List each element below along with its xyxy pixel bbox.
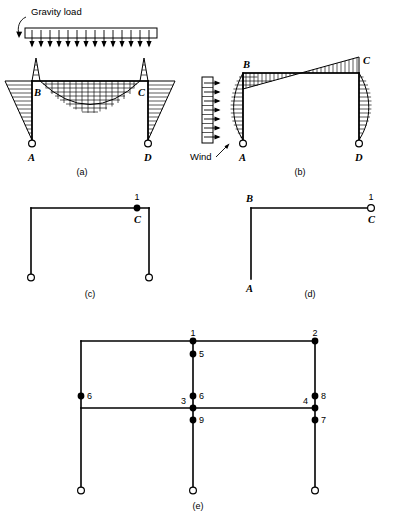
frame-e-dof-node-1 [190, 338, 197, 345]
frame-e-dof-node-6 [190, 393, 197, 400]
panel-e-caption: (e) [193, 501, 204, 511]
frame-e-dof-node-9 [190, 417, 197, 424]
frame-e-right-support-hinge [312, 487, 319, 494]
frame-e-dof-label-n2: 2 [312, 328, 317, 338]
panel-d-caption: (d) [305, 289, 316, 299]
frame-e-dof-label-n1: 1 [190, 328, 195, 338]
panel-b-caption: (b) [295, 167, 306, 177]
frame-e-left-support-hinge [78, 487, 85, 494]
frame-e-dof-label-n8: 8 [321, 391, 326, 401]
panel-c-caption: (c) [85, 289, 96, 299]
frame-e-dof-label-n3: 3 [181, 396, 186, 406]
frame-b-support-D-hinge [356, 140, 363, 147]
frame-c-left-support-hinge [28, 274, 35, 281]
frame-e-dof-node-4 [312, 405, 319, 412]
panel-d-label-C: C [368, 214, 376, 225]
panel-c-dof-label-1: 1 [134, 192, 139, 202]
frame-a-support-D-hinge [145, 140, 152, 147]
frame-e-dof-node-7 [312, 417, 319, 424]
frame-e-dof-label-n6center: 6 [199, 391, 204, 401]
frame-e-dof-node-2 [312, 338, 319, 345]
panel-a-label-B: B [33, 87, 41, 98]
frame-a-support-A-hinge [29, 140, 36, 147]
figure-background [0, 0, 396, 517]
frame-e-dof-label-n7: 7 [321, 415, 326, 425]
panel-c-label-C: C [134, 214, 142, 225]
frame-e-dof-node-8 [312, 393, 319, 400]
frame-b-support-A-hinge [240, 140, 247, 147]
panel-b-label-B: B [242, 59, 250, 70]
frame-e-dof-label-n6left: 6 [87, 391, 92, 401]
panel-a-label-D: D [143, 152, 152, 163]
frame-e-dof-label-n9: 9 [199, 415, 204, 425]
frame-d-free-end-C-hinge [368, 205, 375, 212]
panel-d-dof-label-1: 1 [368, 192, 373, 202]
panel-a-label-A: A [27, 152, 35, 163]
structural-frame-figure: Gravity load [0, 0, 396, 517]
frame-e-center-support-hinge [190, 487, 197, 494]
panel-a-label-C: C [138, 87, 146, 98]
frame-e-dof-label-n5: 5 [199, 349, 204, 359]
panel-a-caption: (a) [77, 167, 88, 177]
frame-e-dof-node-5 [190, 351, 197, 358]
panel-b-label-D: D [354, 152, 363, 163]
frame-e-dof-label-n4: 4 [303, 396, 308, 406]
panel-b-label-C: C [363, 55, 371, 66]
wind-load-label: Wind [190, 151, 212, 162]
panel-d-label-B: B [245, 193, 253, 204]
panel-b-label-A: A [238, 152, 246, 163]
figure-canvas: Gravity load [0, 0, 396, 517]
frame-c-right-support-hinge [146, 274, 153, 281]
frame-c-dof-node-1 [134, 205, 141, 212]
panel-d-label-A: A [245, 283, 253, 294]
gravity-load-label: Gravity load [31, 6, 82, 17]
frame-e-dof-node-6 [78, 393, 85, 400]
frame-e-dof-node-3 [190, 405, 197, 412]
